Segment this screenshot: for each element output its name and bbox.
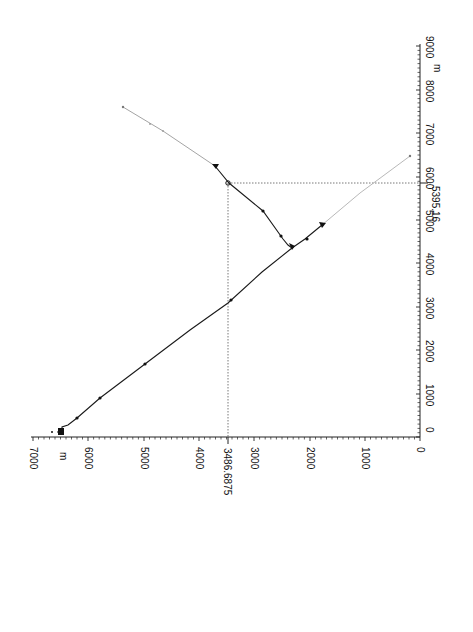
right-axis-tick-label: 7000 xyxy=(424,123,435,146)
bottom-axis-tick-label: 0 xyxy=(415,447,426,453)
bottom-axis-tick-label: 7000 xyxy=(28,447,39,470)
bottom-axis-tick-label: 2000 xyxy=(305,447,316,470)
bottom-axis-tick-label: 6000 xyxy=(83,447,94,470)
right-axis-tick-label: 1000 xyxy=(424,384,435,407)
trace-markers xyxy=(51,164,326,435)
crosshair-y-label: 3486.6875 xyxy=(222,448,233,496)
right-axis-tick-label: 4000 xyxy=(424,253,435,276)
bottom-axis-unit-label: m xyxy=(58,452,69,460)
right-axis: 0100020003000400050006000700080009000 xyxy=(416,36,435,437)
bottom-axis-tick-label: 1000 xyxy=(360,447,371,470)
chart-canvas: 70006000500040003000200010000 0100020003… xyxy=(0,0,473,632)
bottom-axis-tick-label: 3000 xyxy=(249,447,260,470)
right-axis-tick-label: 9000 xyxy=(424,36,435,59)
crosshair-x-label: 5395.16 xyxy=(430,186,441,223)
bottom-axis-tick-label: 5000 xyxy=(139,447,150,470)
right-axis-tick-label: 2000 xyxy=(424,340,435,363)
right-axis-tick-label: 0 xyxy=(424,427,435,433)
right-axis-unit-label: m xyxy=(432,64,443,72)
extension-upper-line xyxy=(123,107,215,166)
crosshair xyxy=(228,183,428,444)
bottom-axis-tick-label: 4000 xyxy=(194,447,205,470)
right-axis-tick-label: 3000 xyxy=(424,297,435,320)
main-trace-line xyxy=(57,225,322,432)
extension-lower-line xyxy=(322,156,410,225)
right-axis-tick-label: 8000 xyxy=(424,80,435,103)
